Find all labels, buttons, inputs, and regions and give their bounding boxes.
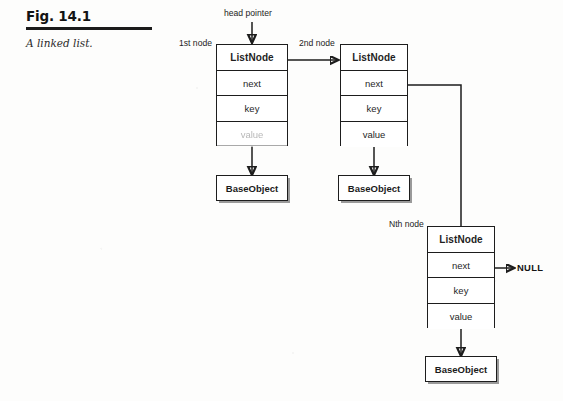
null-label: NULL (517, 262, 543, 273)
first-node-label: 1st node (179, 38, 212, 48)
list-node-1[interactable]: ListNode next key value (216, 44, 288, 146)
list-node-n-field-value: value (428, 304, 494, 330)
nth-node-label: Nth node (389, 219, 424, 229)
list-node-1-field-key: key (217, 96, 287, 122)
list-node-n-field-next: next (428, 253, 494, 279)
base-object-1[interactable]: BaseObject (216, 175, 288, 201)
head-pointer-label: head pointer (224, 8, 272, 18)
list-node-2-field-next: next (341, 71, 407, 97)
list-node-1-header: ListNode (217, 45, 287, 71)
list-node-2-header: ListNode (341, 45, 407, 71)
figure-caption-block: Fig. 14.1 A linked list. (26, 8, 166, 50)
figure-title: A linked list. (26, 37, 166, 50)
list-node-n[interactable]: ListNode next key value (427, 226, 495, 328)
figure-number: Fig. 14.1 (26, 8, 166, 24)
list-node-n-field-key: key (428, 278, 494, 304)
caption-divider (26, 27, 152, 30)
list-node-2[interactable]: ListNode next key value (340, 44, 408, 146)
list-node-1-field-value: value (217, 122, 287, 148)
list-node-n-header: ListNode (428, 227, 494, 253)
figure-page: Fig. 14.1 A linked list. head pointer 1s… (0, 0, 563, 401)
base-object-2[interactable]: BaseObject (338, 175, 410, 201)
list-node-2-field-value: value (341, 122, 407, 148)
list-node-1-field-next: next (217, 71, 287, 97)
list-node-2-field-key: key (341, 96, 407, 122)
second-node-label: 2nd node (299, 38, 335, 48)
base-object-3[interactable]: BaseObject (425, 356, 497, 382)
